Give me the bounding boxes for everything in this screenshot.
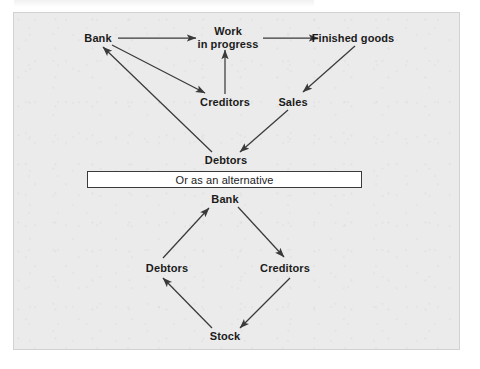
alternative-divider-label: Or as an alternative — [176, 174, 274, 186]
node-creditors: Creditors — [200, 96, 250, 109]
edge-sales-to-debtors — [240, 110, 288, 152]
edge-bank2-to-creditors2 — [238, 207, 284, 257]
edge-creditors2-to-stock2 — [240, 278, 290, 328]
node-work-in-progress-line2: in progress — [197, 37, 258, 49]
node-work-in-progress-line1: Work — [214, 25, 242, 37]
node-stock-alt: Stock — [210, 330, 240, 343]
node-debtors-alt: Debtors — [146, 262, 188, 275]
node-work-in-progress: Work in progress — [197, 25, 258, 50]
node-bank-alt: Bank — [211, 193, 238, 206]
node-sales: Sales — [278, 96, 307, 109]
edge-debtors2-to-bank2 — [163, 208, 209, 258]
node-finished-goods: Finished goods — [312, 32, 395, 45]
node-creditors-alt: Creditors — [260, 262, 310, 275]
edge-finished-goods-to-sales — [303, 46, 355, 92]
alternative-divider-box: Or as an alternative — [87, 171, 362, 188]
node-debtors: Debtors — [205, 154, 247, 167]
figure-canvas: Bank Work in progress Finished goods Cre… — [0, 0, 480, 369]
node-bank: Bank — [84, 32, 111, 45]
edge-debtors-to-bank — [103, 47, 212, 152]
edge-stock2-to-debtors2 — [163, 278, 212, 328]
